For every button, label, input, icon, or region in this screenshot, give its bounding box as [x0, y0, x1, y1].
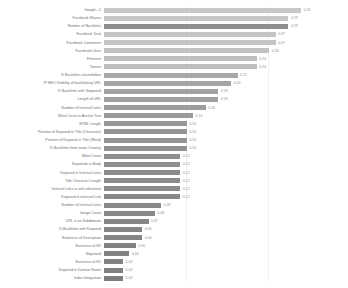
category-label: Word Count: [0, 154, 104, 158]
bar: [104, 138, 187, 143]
bar: [104, 121, 187, 126]
bar: [104, 81, 231, 86]
bar-row: Pinterest0.24: [0, 55, 348, 63]
category-label: Number of Internal Links: [0, 203, 104, 207]
bar-row: Tweets0.24: [0, 63, 348, 71]
value-label: 0.03: [126, 260, 133, 264]
bar-zone: 0.12: [104, 193, 348, 201]
bar-row: Stopword0.04: [0, 250, 348, 258]
bar-row: Word Count0.12: [0, 152, 348, 160]
bar-row: Number of Internal Links0.16: [0, 104, 348, 112]
bar-zone: 0.27: [104, 39, 348, 47]
bar: [104, 32, 276, 37]
value-label: 0.27: [278, 32, 285, 36]
bar-row: Keyword in Domain Name0.03: [0, 266, 348, 274]
bar-zone: 0.03: [104, 274, 348, 282]
value-label: 0.13: [189, 138, 196, 142]
bar: [104, 24, 288, 29]
bar-zone: 0.06: [104, 234, 348, 242]
value-label: 0.12: [183, 162, 190, 166]
bar: [104, 56, 257, 61]
bar: [104, 251, 129, 256]
category-label: Existence of H2: [0, 244, 104, 248]
value-label: 0.12: [183, 195, 190, 199]
value-label: 0.05: [138, 244, 145, 248]
value-label: 0.12: [183, 171, 190, 175]
bar-row: Facebook Likes0.26: [0, 47, 348, 55]
category-label: Facebook Comments: [0, 41, 104, 45]
bar-zone: 0.05: [104, 242, 348, 250]
bar-row: Existence of Description0.06: [0, 234, 348, 242]
bar: [104, 219, 149, 224]
category-label: % Backlinks with Keyword: [0, 227, 104, 231]
bar-row: Facebook Shares0.29: [0, 14, 348, 22]
bar: [104, 259, 123, 264]
bar-zone: 0.20: [104, 79, 348, 87]
bar-row: IP SEO Visibility of backlinking URL0.20: [0, 79, 348, 87]
bar-zone: 0.03: [104, 266, 348, 274]
bar-row: % Backlinks with Stopword0.18: [0, 87, 348, 95]
bar-zone: 0.29: [104, 22, 348, 30]
value-label: 0.20: [234, 81, 241, 85]
category-label: Number of Backlinks: [0, 24, 104, 28]
category-label: Number of Internal Links: [0, 106, 104, 110]
value-label: 0.12: [183, 187, 190, 191]
bar-row: Keywords in Body0.12: [0, 160, 348, 168]
bar: [104, 211, 155, 216]
bar: [104, 89, 218, 94]
category-label: IP SEO Visibility of backlinking URL: [0, 81, 104, 85]
bar: [104, 194, 180, 199]
category-label: Length of URL: [0, 97, 104, 101]
value-label: 0.14: [196, 114, 203, 118]
bar-row: Word Count in Anchor Text0.14: [0, 112, 348, 120]
value-label: 0.21: [240, 73, 247, 77]
bar-row: Keyword in external Link0.12: [0, 193, 348, 201]
category-label: Internal Links is self-referential: [0, 187, 104, 191]
category-label: Word Count in Anchor Text: [0, 114, 104, 118]
category-label: % Backlinks from same Country: [0, 146, 104, 150]
category-label: Title Character Length: [0, 179, 104, 183]
value-label: 0.27: [278, 41, 285, 45]
bar-zone: 0.07: [104, 217, 348, 225]
category-label: Keyword in Domain Name: [0, 268, 104, 272]
category-label: % Backlinks with Stopword: [0, 89, 104, 93]
bar: [104, 146, 187, 151]
bar-row: Title Character Length0.12: [0, 177, 348, 185]
bar-row: Image Count0.08: [0, 209, 348, 217]
bar-zone: 0.12: [104, 152, 348, 160]
bar-zone: 0.13: [104, 136, 348, 144]
bar-row: Facebook Comments0.27: [0, 39, 348, 47]
bar-zone: 0.09: [104, 201, 348, 209]
value-label: 0.31: [304, 8, 311, 12]
category-label: Position of Keyword in Title (Word): [0, 138, 104, 142]
category-label: Image Count: [0, 211, 104, 215]
bar: [104, 276, 123, 281]
bar: [104, 48, 269, 53]
value-label: 0.13: [189, 130, 196, 134]
category-label: Position of Keyword in Title (Character): [0, 130, 104, 134]
bar-zone: 0.04: [104, 250, 348, 258]
bar: [104, 73, 238, 78]
bar: [104, 243, 136, 248]
bar-zone: 0.18: [104, 87, 348, 95]
bar-chart: Google +10.31Facebook Shares0.29Number o…: [0, 0, 348, 288]
bar: [104, 113, 193, 118]
value-label: 0.24: [259, 65, 266, 69]
bar: [104, 178, 180, 183]
value-label: 0.03: [126, 276, 133, 280]
value-label: 0.26: [272, 49, 279, 53]
bar-zone: 0.12: [104, 169, 348, 177]
bar: [104, 105, 206, 110]
bar-zone: 0.13: [104, 120, 348, 128]
bar-row: Existence of H20.05: [0, 242, 348, 250]
bar-row: Index Integration0.03: [0, 274, 348, 282]
category-label: Google +1: [0, 8, 104, 12]
bar-zone: 0.13: [104, 128, 348, 136]
bar-row: Keyword in Internal Links0.12: [0, 169, 348, 177]
bar: [104, 268, 123, 273]
bar-row: HTML Length0.13: [0, 120, 348, 128]
value-label: 0.13: [189, 146, 196, 150]
value-label: 0.04: [132, 252, 139, 256]
bar: [104, 235, 142, 240]
category-label: Keyword in external Link: [0, 195, 104, 199]
